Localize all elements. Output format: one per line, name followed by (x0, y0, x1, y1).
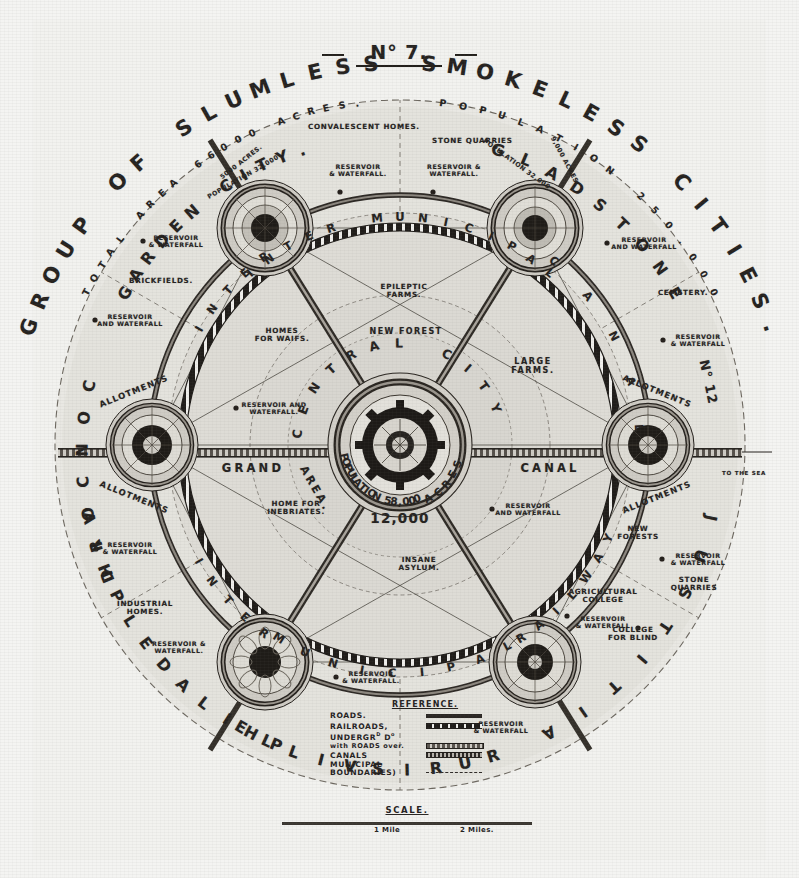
scale-tick-1-mile: 1 Mile (374, 826, 400, 834)
legend-row-boundaries: MUNICIPALBOUNDARIES) (330, 761, 520, 777)
reference-title: REFERENCE. (330, 700, 520, 709)
legend-label-canals: CANALS (330, 751, 426, 760)
plate-number-dash-right (455, 54, 477, 56)
scale-bar: SCALE. 1 Mile 2 Miles. (282, 805, 532, 835)
scale-title: SCALE. (282, 805, 532, 815)
legend-label-railroads: RAILROADS, (330, 722, 426, 731)
legend-key-canals (426, 752, 482, 758)
legend-label-roads: ROADS. (330, 711, 426, 720)
plate-number-underline (356, 65, 442, 67)
legend-key-boundaries (426, 772, 482, 777)
legend-row-roads: ROADS. (330, 711, 520, 720)
legend-row-underground: UNDERGRD Dowith ROADS over. (330, 732, 520, 749)
satellite-city-rurisville (489, 616, 581, 708)
scan-sheet: N° 7. GROUPOFSLUMLESSSMOKELESSCITIES. TO… (0, 0, 799, 878)
plate-number-dash-left (322, 54, 344, 56)
satellite-city-philadelphia (217, 614, 313, 710)
satellite-city-justitia (602, 399, 694, 491)
legend-key-underground (426, 743, 484, 749)
legend-row-railroads: RAILROADS, (330, 722, 520, 731)
satellite-city-garden-city (217, 180, 313, 276)
central-city-glyph (328, 373, 472, 517)
satellite-city-gladstone (487, 180, 583, 276)
legend-key-roads (426, 714, 482, 718)
legend-label-boundaries: MUNICIPALBOUNDARIES) (330, 761, 426, 777)
scale-tick-2-miles: 2 Miles. (460, 826, 494, 834)
reference-legend: REFERENCE. ROADS. RAILROADS, UNDERGRD Do… (330, 700, 520, 779)
legend-label-underground: UNDERGRD Dowith ROADS over. (330, 732, 426, 749)
satellite-city-concord (106, 399, 198, 491)
legend-key-railroads (426, 723, 482, 729)
legend-row-canals: CANALS (330, 751, 520, 760)
